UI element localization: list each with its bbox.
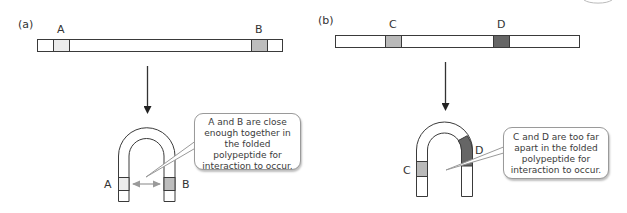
folded-polypeptide-b	[417, 122, 473, 196]
polypeptide-bar	[336, 36, 580, 48]
folded-label-c: C	[403, 164, 411, 177]
segment-b-folded	[164, 178, 175, 191]
segment-label-a: A	[57, 23, 65, 36]
segment-label-d: D	[497, 18, 505, 31]
segment-b	[252, 40, 268, 52]
callout-a: A and B are close enough together in the…	[194, 113, 301, 170]
segment-d	[494, 36, 510, 48]
segment-a-folded	[119, 178, 130, 191]
segment-label-b: B	[255, 23, 263, 36]
segment-label-c: C	[389, 18, 397, 31]
segment-a	[54, 40, 70, 52]
panel-a: (a) A B A B	[18, 18, 283, 202]
page-corner-circle-icon	[584, 0, 612, 3]
linear-polypeptide-b	[336, 36, 580, 48]
segment-c-folded	[417, 162, 428, 177]
segment-c	[386, 36, 402, 48]
linear-polypeptide-a	[38, 40, 283, 52]
panel-label-a: (a)	[18, 18, 33, 31]
polypeptide-bar	[38, 40, 283, 52]
folded-label-b: B	[182, 178, 190, 191]
callout-b: C and D are too far apart in the folded …	[503, 127, 609, 179]
folded-label-a: A	[104, 178, 112, 191]
protein-folding-diagram: (a) A B A B (b) C	[0, 0, 627, 213]
panel-label-b: (b)	[318, 14, 334, 27]
